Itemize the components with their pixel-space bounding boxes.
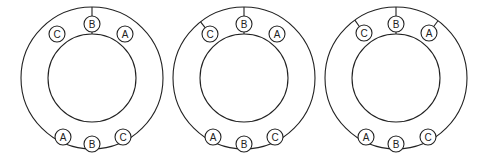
label-text: C <box>360 28 367 39</box>
bottom-label-b: B <box>84 136 100 152</box>
label-text: A <box>274 29 281 40</box>
label-text: C <box>424 132 431 143</box>
label-text: A <box>60 132 67 143</box>
top-label-a: A <box>269 26 285 42</box>
bottom-label-c: C <box>420 129 436 145</box>
label-text: B <box>89 19 96 30</box>
top-label-b: B <box>84 16 100 32</box>
top-label-c: C <box>202 26 218 42</box>
ring-diagram-2: CBAABC <box>173 7 315 152</box>
connector-outer <box>201 22 206 28</box>
label-text: B <box>89 139 96 150</box>
label-text: B <box>241 139 248 150</box>
label-text: A <box>122 29 129 40</box>
label-text: B <box>393 139 400 150</box>
top-label-b: B <box>388 16 404 32</box>
label-text: C <box>119 132 126 143</box>
bottom-label-c: C <box>115 129 131 145</box>
ring-diagrams: CBAABCCBAABCCBAABC <box>0 0 488 157</box>
label-text: A <box>210 132 217 143</box>
connector-outer <box>434 21 438 27</box>
bottom-label-a: A <box>55 129 71 145</box>
top-label-c: C <box>49 26 65 42</box>
bottom-label-a: A <box>205 129 221 145</box>
bottom-label-b: B <box>388 136 404 152</box>
inner-circle <box>48 34 136 122</box>
top-label-a: A <box>117 26 133 42</box>
bottom-label-c: C <box>267 129 283 145</box>
label-text: C <box>206 29 213 40</box>
top-label-b: B <box>236 16 252 32</box>
label-text: C <box>53 29 60 40</box>
bottom-label-b: B <box>236 136 252 152</box>
label-text: B <box>393 19 400 30</box>
inner-circle <box>352 34 440 122</box>
label-text: B <box>241 19 248 30</box>
bottom-label-a: A <box>358 129 374 145</box>
top-label-a: A <box>421 25 437 41</box>
ring-diagram-1: CBAABC <box>21 7 163 152</box>
connector-outer <box>355 20 360 26</box>
label-text: A <box>363 132 370 143</box>
label-text: C <box>271 132 278 143</box>
inner-circle <box>200 34 288 122</box>
ring-diagram-3: CBAABC <box>325 7 467 152</box>
top-label-c: C <box>356 25 372 41</box>
label-text: A <box>426 28 433 39</box>
